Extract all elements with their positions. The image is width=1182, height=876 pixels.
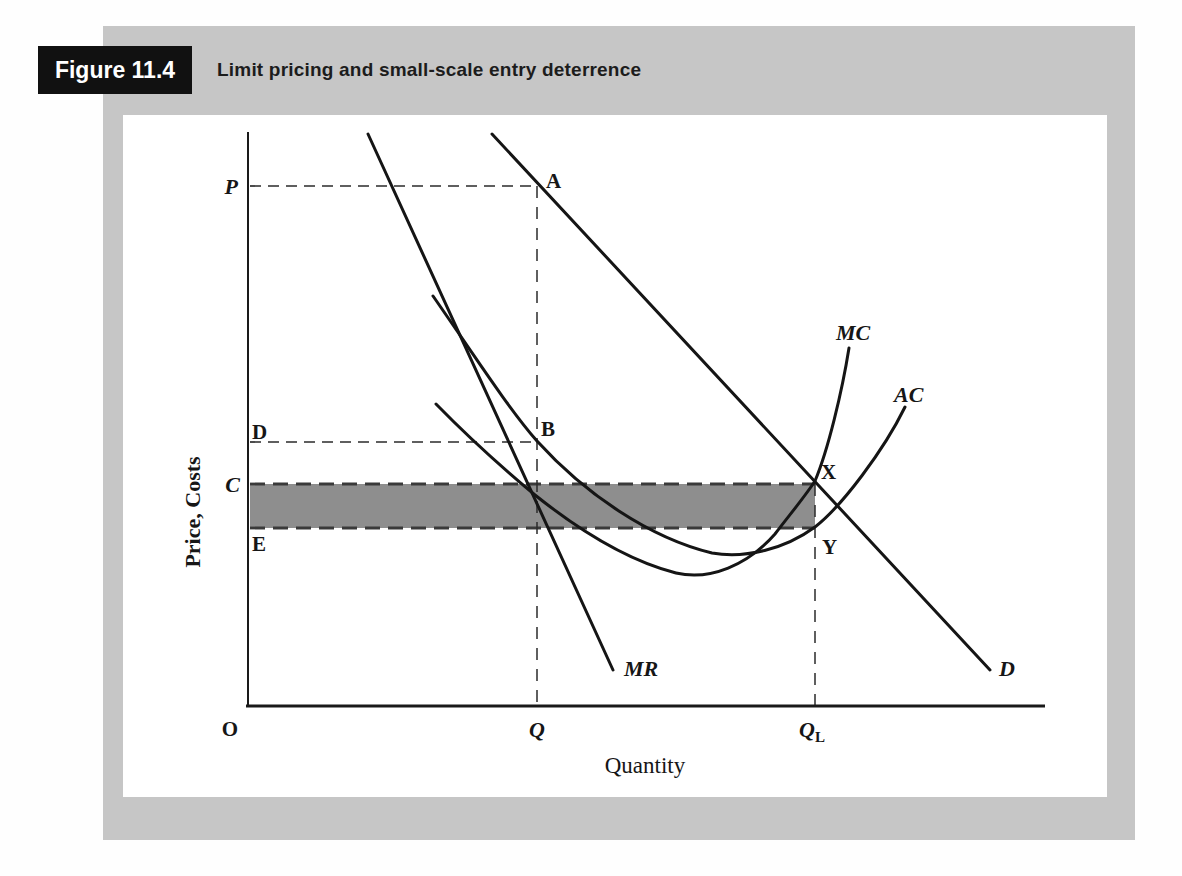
point-label-x: X bbox=[821, 460, 836, 484]
y-label-d: D bbox=[252, 420, 267, 444]
y-label-p: P bbox=[224, 174, 239, 199]
x-label-q: Q bbox=[529, 717, 545, 742]
y-label-c: C bbox=[225, 472, 240, 497]
y-axis-title: Price, Costs bbox=[180, 456, 205, 568]
point-label-a: A bbox=[546, 169, 562, 193]
x-label-ql: QL bbox=[799, 717, 825, 745]
curve-label-mr: MR bbox=[623, 656, 658, 681]
curve-label-d: D bbox=[998, 656, 1015, 681]
marginal-revenue-curve bbox=[368, 134, 613, 670]
marginal-cost-curve bbox=[436, 348, 849, 575]
x-axis-title: Quantity bbox=[605, 753, 686, 778]
curve-label-ac: AC bbox=[892, 382, 924, 407]
y-label-e: E bbox=[252, 532, 266, 556]
point-label-y: Y bbox=[822, 535, 837, 559]
point-label-b: B bbox=[541, 417, 555, 441]
curve-label-mc: MC bbox=[835, 320, 871, 345]
textbook-figure-page: Figure 11.4 Limit pricing and small-scal… bbox=[0, 0, 1182, 876]
diagram-svg: P D C E O Q QL A B X Y MC AC MR D Price,… bbox=[0, 0, 1182, 876]
origin-label: O bbox=[222, 717, 238, 741]
